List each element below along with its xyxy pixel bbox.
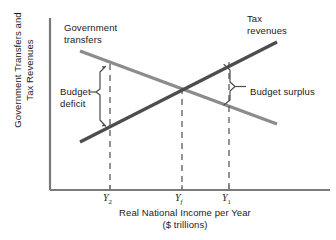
surplus-label-line1: Budget surplus bbox=[250, 86, 315, 97]
chart-plot-area bbox=[0, 0, 336, 240]
transfers-label-line2: transfers bbox=[64, 34, 102, 45]
tax-label-line1: Tax bbox=[247, 13, 262, 24]
budget-deficit-brace bbox=[96, 67, 106, 127]
x-axis-title: Real National Income per Year ($ trillio… bbox=[70, 207, 300, 231]
series-label-tax-revenues: Tax revenues bbox=[247, 13, 287, 36]
y-axis-title-line1: Government Transfers and bbox=[12, 12, 23, 127]
tick-y1-sub: 1 bbox=[228, 198, 232, 206]
x-axis-title-line1: Real National Income per Year bbox=[119, 207, 251, 218]
transfers-label-line1: Government bbox=[64, 22, 117, 33]
deficit-label-line2: deficit bbox=[60, 98, 86, 109]
x-tick-label-y1: Y1 bbox=[222, 192, 231, 206]
economics-chart-figure: Government Transfers and Tax Revenues Go… bbox=[0, 0, 336, 240]
x-tick-label-yf: Yf bbox=[175, 192, 183, 206]
y-axis-title-line2: Tax Revenues bbox=[24, 39, 35, 100]
x-axis-title-line2: ($ trillions) bbox=[162, 219, 207, 230]
annotation-budget-deficit: Budget deficit bbox=[60, 86, 91, 109]
tick-y2-sub: 2 bbox=[109, 198, 113, 206]
y-axis-title: Government Transfers and Tax Revenues bbox=[12, 0, 36, 150]
series-label-government-transfers: Government transfers bbox=[64, 22, 117, 45]
x-tick-label-y2: Y2 bbox=[103, 192, 112, 206]
tax-label-line2: revenues bbox=[247, 25, 287, 36]
annotation-budget-surplus: Budget surplus bbox=[250, 86, 315, 98]
deficit-label-line1: Budget bbox=[60, 86, 91, 97]
tick-yf-sub: f bbox=[181, 198, 183, 206]
